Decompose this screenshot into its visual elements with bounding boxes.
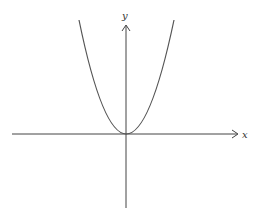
x-axis-label: x bbox=[242, 129, 248, 140]
y-axis-label: y bbox=[121, 10, 128, 21]
parabola-chart: x y bbox=[0, 0, 260, 221]
